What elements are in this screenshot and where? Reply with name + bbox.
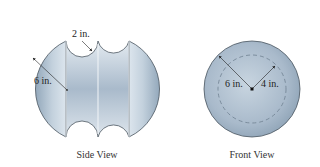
front-center-point	[251, 88, 254, 91]
center-point	[66, 89, 68, 91]
side-view-caption: Side View	[76, 149, 118, 160]
outer-radius-label: 6 in.	[34, 75, 52, 86]
notch-radius-dimension	[82, 41, 92, 51]
right-cap	[129, 41, 160, 137]
front-view-caption: Front View	[229, 149, 275, 160]
front-inner-radius-label: 4 in.	[261, 78, 279, 89]
notch-radius-label: 2 in.	[72, 28, 90, 39]
left-cap	[35, 41, 66, 137]
side-view: 6 in. 2 in. Side View	[33, 28, 160, 160]
dumbbell-diagram: 6 in. 2 in. Side View 6 in. 4 in. Front …	[0, 0, 320, 167]
front-view: 6 in. 4 in. Front View	[204, 41, 300, 160]
front-outer-radius-label: 6 in.	[225, 78, 243, 89]
